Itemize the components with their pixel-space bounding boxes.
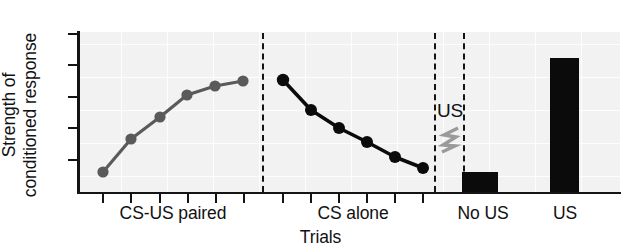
category-label-us: US [537, 203, 593, 224]
y-axis-title-line1: Strength of [0, 15, 20, 215]
y-axis-title: Strength of conditioned response [0, 15, 43, 215]
category-label-cs-us-paired: CS-US paired [98, 203, 248, 224]
category-label-cs-alone: CS alone [285, 203, 421, 224]
x-axis-tick [159, 194, 161, 203]
x-axis-tick [366, 194, 368, 203]
x-axis-tick [215, 194, 217, 203]
phase-divider-3 [463, 33, 465, 192]
x-axis-tick [394, 194, 396, 203]
y-axis-tick [68, 64, 78, 66]
x-axis-tick [422, 194, 424, 203]
y-axis-line [77, 31, 80, 194]
y-axis-tick [68, 96, 78, 98]
chart-figure: Strength of conditioned response [0, 0, 641, 250]
phase-divider-2 [434, 33, 436, 192]
plot-gridlines [79, 32, 620, 193]
y-axis-tick [68, 127, 78, 129]
us-annotation-label: US [437, 101, 463, 121]
bar-no-us [462, 172, 498, 192]
plot-area [79, 32, 620, 193]
x-axis-title: Trials [0, 227, 641, 248]
x-axis-tick [243, 194, 245, 203]
x-axis-tick [310, 194, 312, 203]
y-axis-tick [68, 159, 78, 161]
category-label-no-us: No US [443, 203, 523, 224]
x-axis-tick [187, 194, 189, 203]
lightning-bolt-icon [438, 126, 464, 154]
x-axis-tick [282, 194, 284, 203]
y-axis-title-line2: conditioned response [20, 15, 41, 215]
x-axis-tick [130, 194, 132, 203]
x-axis-tick [102, 194, 104, 203]
y-axis-tick [68, 33, 78, 35]
x-axis-tick [338, 194, 340, 203]
phase-divider-1 [262, 33, 264, 192]
bar-us [550, 58, 579, 192]
